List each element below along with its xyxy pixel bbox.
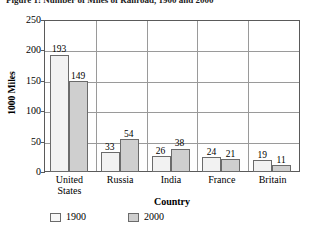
- bar-group: 33 54: [95, 20, 146, 172]
- bar-value-label: 149: [63, 71, 93, 81]
- legend-label: 1900: [66, 212, 86, 222]
- bar-value-label: 11: [266, 155, 296, 165]
- x-tick-label-france: France: [194, 174, 250, 185]
- bar-groups: 193 149 33 54 26 38 24 21 19: [44, 20, 300, 172]
- railroad-miles-bar-chart: Figure 1: Number of Miles of Railroad, 1…: [0, 0, 316, 227]
- y-tick-label: 100: [7, 106, 41, 116]
- bar-2000: [69, 81, 88, 172]
- x-tick-label-britain: Britain: [245, 174, 301, 185]
- bar-value-label: 21: [215, 149, 245, 159]
- y-axis-tick-labels: 250 200 150 100 50 0: [2, 20, 41, 172]
- bar-1900: [101, 152, 120, 172]
- bar-group: 19 11: [247, 20, 298, 172]
- x-axis-title: Country: [44, 196, 300, 207]
- legend-label: 2000: [144, 212, 164, 222]
- bar-group: 26 38: [146, 20, 197, 172]
- bar-1900: [202, 157, 221, 172]
- bar-group: 24 21: [196, 20, 247, 172]
- bar-value-label: 38: [165, 138, 195, 148]
- bar-1900: [152, 156, 171, 172]
- x-tick-label-india: India: [143, 174, 199, 185]
- y-tick-label: 200: [7, 45, 41, 55]
- legend-item-2000[interactable]: 2000: [128, 211, 164, 223]
- x-tick-label-united-states: United States: [41, 174, 97, 196]
- bar-value-label: 193: [44, 44, 74, 54]
- y-tick-label: 250: [7, 15, 41, 25]
- bar-value-label: 54: [114, 129, 144, 139]
- y-tick-label: 50: [7, 137, 41, 147]
- bar-2000: [171, 149, 190, 172]
- legend-item-1900[interactable]: 1900: [50, 211, 86, 223]
- legend-swatch-icon: [128, 213, 139, 222]
- y-tick-label: 0: [7, 167, 41, 177]
- y-tick-label: 150: [7, 76, 41, 86]
- x-tick-label-russia: Russia: [92, 174, 148, 185]
- legend-swatch-icon: [50, 213, 61, 222]
- y-tick-mark: [41, 172, 45, 173]
- bar-2000: [221, 159, 240, 172]
- bar-2000: [272, 165, 291, 172]
- x-tick-label-line2: States: [41, 185, 97, 196]
- chart-title: Figure 1: Number of Miles of Railroad, 1…: [6, 0, 310, 5]
- bar-2000: [120, 139, 139, 172]
- bar-group: 193 149: [44, 20, 95, 172]
- x-tick-label-line1: United: [41, 174, 97, 185]
- chart-legend: 1900 2000: [44, 211, 300, 225]
